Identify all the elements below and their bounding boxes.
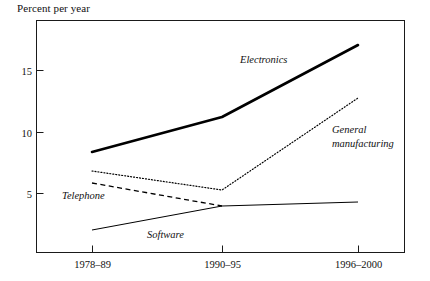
xtick-label-1996-2000: 1996–2000 — [335, 259, 382, 270]
xtick-label-1978-89: 1978–89 — [74, 259, 111, 270]
series-line-electronics — [92, 45, 358, 152]
ytick-label-15: 15 — [22, 66, 33, 77]
series-label-general-manufacturing-line1: General — [332, 124, 366, 135]
plot-frame — [37, 21, 405, 253]
ytick-label-5: 5 — [27, 189, 32, 200]
series-line-telephone — [92, 183, 222, 206]
series-label-software: Software — [147, 229, 184, 240]
xtick-label-1990-95: 1990–95 — [204, 259, 241, 270]
series-label-electronics: Electronics — [239, 54, 287, 65]
chart-page: Percent per year 15 10 5 1978–89 1990–95… — [0, 0, 430, 281]
series-line-general-manufacturing — [92, 98, 358, 190]
series-line-software — [92, 202, 358, 230]
series-label-telephone: Telephone — [62, 190, 105, 201]
series-label-general-manufacturing-line2: manufacturing — [332, 138, 394, 149]
ytick-label-10: 10 — [22, 128, 33, 139]
line-chart: 15 10 5 1978–89 1990–95 1996–2000 Electr… — [0, 0, 430, 281]
